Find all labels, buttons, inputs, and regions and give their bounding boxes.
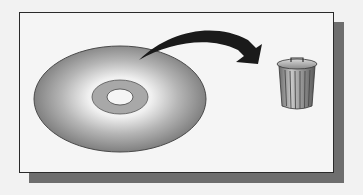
optical-disc-icon xyxy=(34,46,206,152)
illustration-scene xyxy=(0,0,363,195)
trash-can-icon xyxy=(277,58,317,109)
